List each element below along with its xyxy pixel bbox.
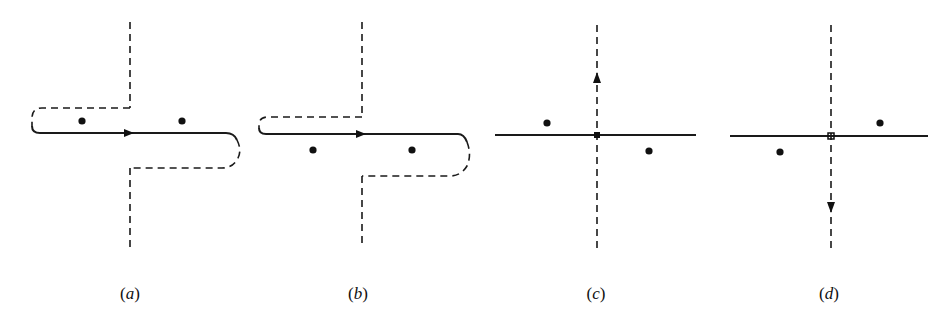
arrow-right-icon [124,129,134,137]
panel-letter: c [592,284,600,303]
panel-label-d: (d) [819,284,839,304]
pole-dot [645,147,652,154]
lower-detour [130,140,240,168]
arrow-down-icon [827,202,835,213]
panel-letter: a [126,284,135,303]
panel-label-a: (a) [120,284,140,304]
lower-detour [362,142,470,176]
pole-dot [876,119,883,126]
arrow-right-icon [356,130,366,138]
panel-label-b: (b) [348,284,368,304]
panel-d [730,25,928,250]
panel-c [495,25,696,250]
panel-letter: b [354,284,363,303]
contour-figure: .solid { fill: none; stroke: #1a1a1a; st… [0,0,950,321]
real-axis-contour [32,126,237,140]
arrow-up-icon [593,72,601,83]
pole-dot [178,117,185,124]
pole-dot [543,119,550,126]
pole-dot [408,146,415,153]
panel-b [259,22,470,248]
panel-label-c: (c) [587,284,606,304]
pole-dot [776,148,783,155]
pole-dot [78,117,85,124]
upper-detour [259,117,362,128]
panel-letter: d [825,284,834,303]
pole-dot [309,146,316,153]
panel-a [32,22,240,248]
origin-marker [594,132,600,138]
